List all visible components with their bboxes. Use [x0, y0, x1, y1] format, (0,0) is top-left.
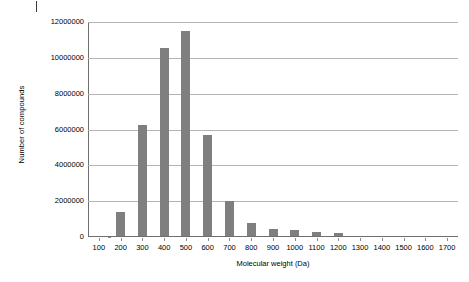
y-tick-label: 12000000	[26, 18, 84, 26]
x-tick-label: 1400	[373, 243, 390, 252]
plot-area	[88, 22, 458, 237]
x-tick-label: 700	[223, 243, 236, 252]
x-tick-label: 1300	[352, 243, 369, 252]
x-tickmark	[208, 238, 209, 241]
x-tickmark	[186, 238, 187, 241]
y-tick-label: 6000000	[26, 126, 84, 134]
molecular-weight-histogram-figure: Number of compounds 02000000400000060000…	[0, 0, 469, 282]
x-tick-label: 500	[180, 243, 193, 252]
bar	[290, 230, 299, 236]
bar	[247, 223, 256, 236]
bar	[116, 212, 125, 236]
x-tick-label: 1100	[308, 243, 324, 252]
x-tick-label: 300	[136, 243, 149, 252]
bar	[203, 135, 212, 236]
bar	[269, 229, 278, 236]
x-tick-label: 1700	[439, 243, 456, 252]
bar	[334, 233, 343, 236]
x-tick-label: 1000	[286, 243, 303, 252]
gridline	[88, 94, 458, 95]
gridline	[88, 58, 458, 59]
y-tick-label: 4000000	[26, 161, 84, 169]
x-tick-label: 100	[93, 243, 106, 252]
y-tick-label: 2000000	[26, 197, 84, 205]
gridline	[88, 22, 458, 23]
x-tickmark	[142, 238, 143, 241]
y-tickmark	[108, 237, 111, 238]
x-tick-label: 600	[201, 243, 214, 252]
bar	[225, 201, 234, 236]
x-tick-label: 800	[245, 243, 258, 252]
y-tick-label: 0	[26, 233, 84, 241]
x-tick-label: 200	[114, 243, 127, 252]
x-tickmark	[382, 238, 383, 241]
bar	[181, 31, 190, 236]
bar	[160, 48, 169, 236]
x-axis-line	[88, 236, 458, 237]
x-tickmark	[229, 238, 230, 241]
y-tick-label: 10000000	[26, 54, 84, 62]
x-tickmark	[317, 238, 318, 241]
x-axis-title: Molecular weight (Da)	[88, 259, 458, 268]
x-tickmark	[425, 238, 426, 241]
x-tick-label: 1500	[395, 243, 412, 252]
x-tickmark	[99, 238, 100, 241]
bar	[312, 232, 321, 236]
y-axis-tick-labels: 0200000040000006000000800000010000000120…	[24, 0, 84, 282]
x-tick-label: 1600	[417, 243, 434, 252]
x-tickmark	[447, 238, 448, 241]
bar	[138, 125, 147, 236]
y-tick-label: 8000000	[26, 90, 84, 98]
x-tickmark	[164, 238, 165, 241]
x-tickmark	[404, 238, 405, 241]
x-tick-label: 900	[267, 243, 280, 252]
x-tickmark	[338, 238, 339, 241]
x-tick-label: 400	[158, 243, 171, 252]
x-tick-label: 1200	[330, 243, 347, 252]
x-tickmark	[360, 238, 361, 241]
x-tickmark	[295, 238, 296, 241]
x-tickmark	[273, 238, 274, 241]
x-tickmark	[121, 238, 122, 241]
x-tickmark	[251, 238, 252, 241]
